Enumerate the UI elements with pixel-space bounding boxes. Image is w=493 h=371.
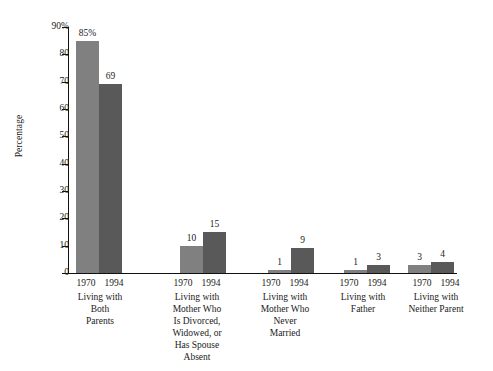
bar-value-label: 85% <box>68 28 107 38</box>
x-group-1: 19701994Living with Both Parents <box>60 277 140 327</box>
series-tick-labels: 19701994 <box>386 277 486 289</box>
x-group-2: 19701994Living with Mother Who Is Divorc… <box>156 277 238 364</box>
bar-chart: Percentage 90%80706050403020100 85%10113… <box>0 0 493 371</box>
bar-1970-group-4 <box>344 270 367 273</box>
category-label: Living with Mother Who Is Divorced, Wido… <box>156 291 238 364</box>
series-tick-labels: 19701994 <box>156 277 238 289</box>
bar-1994-group-2 <box>203 232 226 273</box>
bar-1994-group-4 <box>367 265 390 273</box>
bar-1970-group-5 <box>408 265 431 273</box>
bar-value-label: 9 <box>283 235 322 245</box>
series-label-1994: 1994 <box>441 277 460 289</box>
series-tick-labels: 19701994 <box>60 277 140 289</box>
series-label-1970: 1970 <box>262 277 281 289</box>
category-label: Living with Both Parents <box>60 291 140 327</box>
bar-value-label: 4 <box>423 249 462 259</box>
bar-value-label: 3 <box>359 252 398 262</box>
series-label-1994: 1994 <box>290 277 309 289</box>
bar-1994-group-3 <box>291 248 314 273</box>
series-label-1970: 1970 <box>174 277 193 289</box>
category-label: Living with Neither Parent <box>386 291 486 315</box>
bar-1994-group-5 <box>431 262 454 273</box>
bar-1994-group-1 <box>99 84 122 273</box>
series-label-1994: 1994 <box>368 277 387 289</box>
bar-1970-group-2 <box>180 246 203 273</box>
bar-1970-group-3 <box>268 270 291 273</box>
x-group-3: 19701994Living with Mother Who Never Mar… <box>244 277 326 339</box>
bar-value-label: 69 <box>91 71 130 81</box>
series-label-1970: 1970 <box>340 277 359 289</box>
bar-value-label: 15 <box>195 219 234 229</box>
series-label-1994: 1994 <box>105 277 124 289</box>
series-label-1970: 1970 <box>413 277 432 289</box>
category-label: Living with Mother Who Never Married <box>244 291 326 339</box>
series-label-1994: 1994 <box>202 277 221 289</box>
series-tick-labels: 19701994 <box>244 277 326 289</box>
x-group-5: 19701994Living with Neither Parent <box>386 277 486 315</box>
series-label-1970: 1970 <box>77 277 96 289</box>
